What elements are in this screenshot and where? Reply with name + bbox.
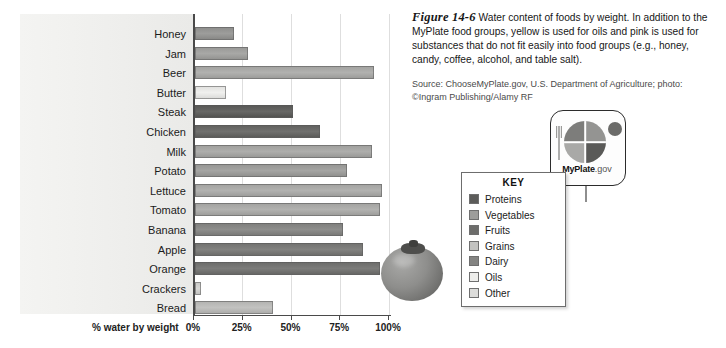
myplate-pointer-stem xyxy=(585,184,587,202)
bar-category-label: Lettuce xyxy=(0,181,186,201)
plate-quadrant-proteins xyxy=(585,142,606,163)
x-tick-label: 0% xyxy=(186,322,200,333)
figure-source-line-1: Source: ChooseMyPlate.gov, U.S. Departme… xyxy=(412,78,712,91)
legend-label: Proteins xyxy=(485,192,522,207)
legend-item: Fruits xyxy=(469,223,565,238)
bar-category-label: Beer xyxy=(0,63,186,83)
figure-number: Figure 14-6 xyxy=(412,10,476,24)
legend-label: Dairy xyxy=(485,254,508,269)
bar-category-label: Banana xyxy=(0,220,186,240)
legend-label: Other xyxy=(485,286,510,301)
bar-potato xyxy=(195,164,347,177)
legend-swatch-fruits xyxy=(469,225,479,235)
bar-category-label: Crackers xyxy=(0,279,186,299)
bar-category-label: Milk xyxy=(0,142,186,162)
x-tick-label: 100% xyxy=(375,322,401,333)
bar-row: Orange xyxy=(0,259,420,279)
x-tick xyxy=(242,315,243,320)
bar-row: Butter xyxy=(0,83,420,103)
plate-quadrant-vegetables xyxy=(564,121,585,142)
x-tick-label: 25% xyxy=(232,322,252,333)
legend-item: Oils xyxy=(469,270,565,285)
plate-quadrant-fruits xyxy=(564,142,585,163)
bar-honey xyxy=(195,27,234,40)
figure-page: HoneyJamBeerButterSteakChickenMilkPotato… xyxy=(0,0,726,348)
bar-apple xyxy=(195,243,363,256)
bar-orange xyxy=(195,262,380,275)
legend-label: Grains xyxy=(485,239,514,254)
legend-swatch-grains xyxy=(469,241,479,251)
bar-category-label: Honey xyxy=(0,24,186,44)
bar-row: Apple xyxy=(0,240,420,260)
bar-category-label: Potato xyxy=(0,161,186,181)
bar-row: Banana xyxy=(0,220,420,240)
figure-source-line-2: ©Ingram Publishing/Alamy RF xyxy=(412,91,712,104)
bar-category-label: Bread xyxy=(0,298,186,318)
plate-divider-horizontal xyxy=(564,141,606,143)
bar-jam xyxy=(195,47,248,60)
legend-title: KEY xyxy=(462,177,565,188)
bar-butter xyxy=(195,86,226,99)
bar-bread xyxy=(195,301,273,314)
legend-label: Vegetables xyxy=(485,208,535,223)
tomato-highlight xyxy=(393,254,415,267)
legend-item: Vegetables xyxy=(469,208,565,223)
bar-row: Lettuce xyxy=(0,181,420,201)
legend-item: Proteins xyxy=(469,192,565,207)
bar-row: Steak xyxy=(0,102,420,122)
legend-swatch-other xyxy=(469,288,479,298)
legend-swatch-vegetables xyxy=(469,210,479,220)
bar-steak xyxy=(195,105,293,118)
legend-swatch-proteins xyxy=(469,194,479,204)
x-tick-label: 50% xyxy=(280,322,300,333)
bar-lettuce xyxy=(195,184,382,197)
bar-row: Jam xyxy=(0,44,420,64)
bar-row: Honey xyxy=(0,24,420,44)
tomato-body xyxy=(381,246,443,301)
legend-item: Grains xyxy=(469,239,565,254)
x-tick xyxy=(388,315,389,320)
x-axis-title: % water by weight xyxy=(92,322,179,333)
legend-label: Fruits xyxy=(485,223,510,238)
x-tick xyxy=(339,315,340,320)
bar-row: Crackers xyxy=(0,279,420,299)
legend-item: Other xyxy=(469,286,565,301)
bar-row: Tomato xyxy=(0,200,420,220)
bar-category-label: Steak xyxy=(0,102,186,122)
bar-row: Potato xyxy=(0,161,420,181)
dairy-cup-icon xyxy=(608,122,622,136)
bar-row: Beer xyxy=(0,63,420,83)
legend-label: Oils xyxy=(485,270,502,285)
tomato-stem-top xyxy=(409,240,418,247)
myplate-brand: MyPlate xyxy=(562,164,595,174)
bar-milk xyxy=(195,145,372,158)
bar-row: Milk xyxy=(0,142,420,162)
plate-quadrant-grains xyxy=(585,121,606,142)
bar-category-label: Apple xyxy=(0,240,186,260)
bar-tomato xyxy=(195,203,380,216)
bar-category-label: Chicken xyxy=(0,122,186,142)
bar-row: Bread xyxy=(0,298,420,318)
fork-icon xyxy=(556,126,562,160)
legend-swatch-oils xyxy=(469,272,479,282)
bar-category-label: Tomato xyxy=(0,200,186,220)
bar-beer xyxy=(195,66,374,79)
bar-banana xyxy=(195,223,343,236)
bar-category-label: Jam xyxy=(0,44,186,64)
x-tick xyxy=(193,315,194,320)
bar-row: Chicken xyxy=(0,122,420,142)
x-tick-label: 75% xyxy=(329,322,349,333)
bar-chart: HoneyJamBeerButterSteakChickenMilkPotato… xyxy=(0,0,420,348)
legend-swatch-dairy xyxy=(469,256,479,266)
bar-crackers xyxy=(195,282,201,295)
bar-category-label: Butter xyxy=(0,83,186,103)
myplate-plate xyxy=(564,121,606,163)
bar-category-label: Orange xyxy=(0,259,186,279)
x-tick xyxy=(291,315,292,320)
chart-legend: KEY ProteinsVegetablesFruitsGrainsDairyO… xyxy=(461,172,566,307)
tomato-photo xyxy=(381,240,443,302)
figure-caption: Figure 14-6 Water content of foods by we… xyxy=(412,10,712,103)
bar-chicken xyxy=(195,125,320,138)
legend-item: Dairy xyxy=(469,254,565,269)
myplate-domain: .gov xyxy=(595,164,612,174)
